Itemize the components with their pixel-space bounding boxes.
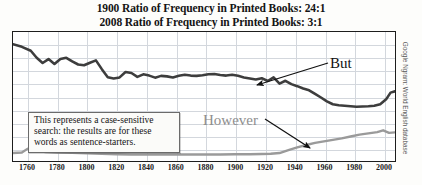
source-credit: Google Ngram: World English database xyxy=(399,36,411,160)
x-tick-label: 1920 xyxy=(257,163,273,172)
x-tick-label: 1820 xyxy=(108,163,124,172)
annotation-note-box: This represents a case-sensitive search:… xyxy=(28,112,180,153)
annotation-note-line-1: This represents a case-sensitive xyxy=(34,115,175,126)
annotation-note-line-2: search: the results are for these xyxy=(34,126,175,137)
annotation-note-line-3: words as sentence-starters. xyxy=(34,137,175,148)
x-tick-label: 1960 xyxy=(317,163,333,172)
x-axis-ticks: 1760178018001820184018601880190019201940… xyxy=(12,163,396,177)
x-tick-label: 1760 xyxy=(19,163,35,172)
x-tick-label: 1800 xyxy=(78,163,94,172)
x-tick-label: 1840 xyxy=(138,163,154,172)
series-label-however: However xyxy=(203,112,258,129)
x-tick-label: 2000 xyxy=(376,163,392,172)
source-credit-text: Google Ngram: World English database xyxy=(402,42,409,155)
x-tick-label: 1940 xyxy=(287,163,303,172)
chart-title-line-1: 1900 Ratio of Frequency in Printed Books… xyxy=(0,1,422,15)
chart-title-block: 1900 Ratio of Frequency in Printed Books… xyxy=(0,1,422,29)
chart-screenshot: 1900 Ratio of Frequency in Printed Books… xyxy=(0,0,422,185)
x-tick-label: 1900 xyxy=(227,163,243,172)
x-tick-label: 1880 xyxy=(197,163,213,172)
chart-title-line-2: 2008 Ratio of Frequency in Printed Books… xyxy=(0,15,422,29)
series-line-but xyxy=(13,44,395,107)
x-tick-label: 1860 xyxy=(168,163,184,172)
series-label-but: But xyxy=(330,55,352,72)
x-tick-label: 1780 xyxy=(49,163,65,172)
x-tick-label: 1980 xyxy=(346,163,362,172)
